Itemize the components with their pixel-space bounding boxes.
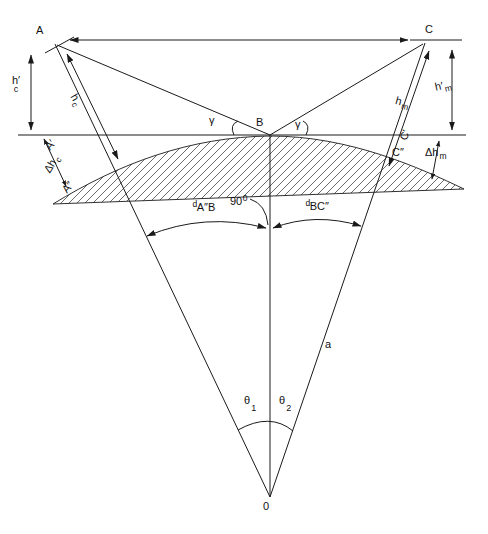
gamma-label-right: γ [295,119,301,130]
diagram-canvas [0,0,488,534]
theta1-symbol: θ [244,394,250,406]
theta1-label: θ1 [244,395,255,407]
h-prime-m-main: h′ [434,79,445,92]
geometry-diagram: A C B 0 A′ A″ C′ C″ γ γ 900 θ1 θ2 h′c hc… [0,0,488,534]
arc-distance-left-main: A″B [197,201,216,213]
point-label-A: A [36,25,43,36]
arc-distance-left-d: d [193,199,198,209]
delta-hm-sub: m [439,151,446,161]
point-label-origin: 0 [263,501,269,512]
delta-hm-main: Δh [425,146,438,158]
right-angle-sup: 0 [243,193,248,203]
arc-distance-left-label: dA″B [192,202,215,214]
background [0,0,488,534]
delta-hm-label: Δhm [425,147,446,159]
right-angle-value: 90 [230,195,242,207]
h-prime-c-sub: c [14,85,19,94]
theta2-symbol: θ [279,394,285,406]
theta1-sub: 1 [251,403,256,413]
point-label-C-double-prime: C″ [392,147,404,158]
point-label-B: B [256,117,263,128]
arc-distance-right-d: d [306,198,311,208]
theta2-sub: 2 [286,403,291,413]
right-angle-label: 900 [230,196,247,208]
arc-distance-right-label: dBC″ [305,201,329,213]
gamma-label-left: γ [209,115,215,126]
theta2-label: θ2 [279,395,290,407]
arc-distance-right-main: BC″ [310,200,329,212]
point-label-C: C [425,24,433,35]
height-label-h-prime-m: h′m [434,79,451,94]
earth-radius-label: a [325,339,331,350]
height-label-h-prime-c: h′c [12,76,20,94]
